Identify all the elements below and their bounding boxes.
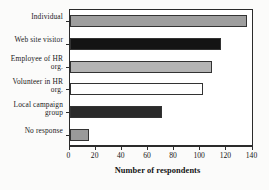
- bar[interactable]: [70, 83, 203, 95]
- x-axis-tick-label: 100: [194, 151, 205, 160]
- bar[interactable]: [70, 15, 248, 27]
- bar-band: [70, 55, 252, 78]
- y-label-volunteer-in-hr-org: Volunteer in HR org.: [0, 78, 63, 94]
- y-axis-category-labels: Individual Web site visitor Employee of …: [0, 9, 66, 146]
- plot-area: [69, 9, 253, 146]
- bar[interactable]: [70, 61, 212, 73]
- x-axis-tick: [252, 146, 253, 150]
- y-label-line: No response: [0, 127, 63, 135]
- y-axis-tick: [66, 89, 70, 90]
- bar-band: [70, 78, 252, 101]
- y-label-individual: Individual: [0, 13, 63, 21]
- y-axis-tick: [66, 112, 70, 113]
- x-axis-tick-label: 40: [117, 151, 125, 160]
- y-label-no-response: No response: [0, 127, 63, 135]
- y-axis-tick: [66, 44, 70, 45]
- y-axis-tick: [66, 67, 70, 68]
- x-axis-tick-label: 0: [67, 151, 71, 160]
- bar[interactable]: [70, 129, 90, 141]
- bar[interactable]: [70, 38, 222, 50]
- y-label-local-campaign-group: Local campaign group: [0, 101, 63, 117]
- y-label-web-site-visitor: Web site visitor: [0, 36, 63, 44]
- x-axis-tick-label: 60: [143, 151, 151, 160]
- x-axis-title: Number of respondents: [0, 166, 269, 175]
- x-axis-tick-label: 140: [246, 151, 257, 160]
- y-label-line: group: [0, 109, 63, 117]
- y-label-line: org.: [0, 86, 63, 94]
- bar-chart: Individual Web site visitor Employee of …: [0, 0, 269, 190]
- bar[interactable]: [70, 106, 163, 118]
- bar-band: [70, 33, 252, 56]
- y-axis-tick: [66, 135, 70, 136]
- x-axis-tick: [225, 146, 226, 150]
- x-axis-title-text: Number of respondents: [69, 166, 201, 175]
- y-label-line: Individual: [0, 13, 63, 21]
- x-axis-tick: [173, 146, 174, 150]
- x-axis-tick-label: 20: [91, 151, 99, 160]
- y-axis-tick: [66, 21, 70, 22]
- x-axis-tick-label: 80: [169, 151, 177, 160]
- x-axis-tick: [147, 146, 148, 150]
- x-axis-tick: [95, 146, 96, 150]
- y-label-line: org.: [0, 63, 63, 71]
- bar-band: [70, 123, 252, 146]
- y-label-line: Web site visitor: [0, 36, 63, 44]
- x-axis-tick: [199, 146, 200, 150]
- x-axis-tick-label: 120: [220, 151, 231, 160]
- x-axis-tick: [69, 146, 70, 150]
- x-axis-tick: [121, 146, 122, 150]
- bar-band: [70, 10, 252, 33]
- y-label-employee-of-hr-org: Employee of HR org.: [0, 55, 63, 71]
- bar-band: [70, 101, 252, 124]
